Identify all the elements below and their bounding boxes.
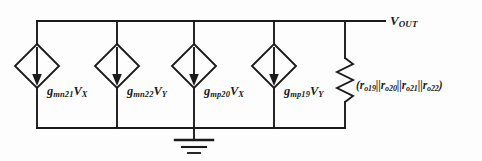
circuit-diagram-canvas: VOUT gmn21VX gmn22VY gmp20VX gmp19VY (ro…	[0, 0, 482, 161]
source-3-label: gmp20VX	[204, 85, 244, 98]
source-2-control-var: V	[154, 84, 162, 98]
source-4-label: gmp19VY	[284, 85, 324, 98]
vout-symbol: V	[390, 13, 399, 28]
source-1-gm-subscript: mn21	[53, 89, 73, 99]
source-3-gm-subscript: mp20	[210, 89, 230, 99]
resistance-term-3-subscript: o21	[406, 84, 418, 93]
source-3-control-subscript: X	[238, 89, 244, 99]
source-1-control-subscript: X	[82, 89, 88, 99]
source-4-control-subscript: Y	[318, 89, 323, 99]
source-2-label: gmn22VY	[127, 85, 167, 98]
source-2-gm-subscript: mn22	[133, 89, 153, 99]
resistance-term-1-subscript: o19	[364, 84, 376, 93]
output-resistance-label: (ro19||ro20||ro21||ro22)	[356, 80, 442, 93]
resistance-term-4-subscript: o22	[427, 84, 439, 93]
output-node-label: VOUT	[390, 14, 418, 29]
resistance-close-paren: )	[439, 79, 443, 91]
vout-subscript: OUT	[399, 19, 418, 29]
resistor-zigzag	[337, 58, 353, 102]
source-1-label: gmn21VX	[47, 85, 88, 98]
source-4-gm-subscript: mp19	[290, 89, 310, 99]
source-1-control-var: V	[74, 84, 82, 98]
source-2-control-subscript: Y	[162, 89, 167, 99]
resistance-term-2-subscript: o20	[385, 84, 397, 93]
